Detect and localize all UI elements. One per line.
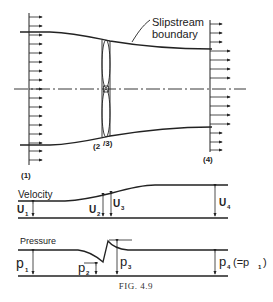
p1-label: p 1 [16, 255, 29, 273]
p4-label: p 4 (=p 1 ) [219, 254, 267, 270]
slipstream-bottom-boundary [20, 127, 212, 145]
slipstream-leader-line [132, 20, 150, 42]
u3-label: U 3 [113, 198, 125, 211]
outflow-arrows [210, 24, 230, 150]
svg-text:p: p [120, 254, 127, 269]
u1-label: U 1 [17, 204, 29, 217]
station-1-label: (1) [21, 171, 31, 180]
station-2-label: (2 [93, 142, 101, 151]
svg-text:U: U [89, 204, 96, 215]
svg-text:p: p [16, 255, 24, 271]
svg-text:(=p: (=p [233, 256, 249, 268]
svg-text:3: 3 [128, 264, 132, 270]
propeller-disc [102, 40, 110, 137]
svg-text:): ) [263, 256, 267, 268]
pressure-title: Pressure [20, 236, 56, 246]
p2-label: p 2 [78, 260, 90, 276]
slipstream-schematic [14, 13, 246, 165]
actuator-disc-diagram: Slipstream boundary (1) (2 /3) (4) Veloc… [0, 0, 273, 302]
svg-text:4: 4 [227, 264, 231, 270]
svg-text:p: p [78, 260, 85, 275]
velocity-title: Velocity [18, 189, 52, 200]
svg-text:U: U [17, 204, 24, 215]
svg-text:2: 2 [97, 211, 101, 217]
svg-text:U: U [113, 198, 120, 209]
svg-text:2: 2 [86, 270, 90, 276]
u4-label: U 4 [219, 197, 231, 210]
u2-label: U 2 [89, 204, 101, 217]
station-3-label: /3) [103, 139, 113, 148]
svg-text:1: 1 [25, 267, 29, 273]
slipstream-label-line1: Slipstream [152, 16, 204, 28]
figure-caption: FIG. 4.9 [119, 281, 153, 291]
svg-text:1: 1 [258, 264, 262, 270]
inflow-arrows [29, 17, 42, 160]
slipstream-label-line2: boundary [152, 28, 198, 40]
svg-text:4: 4 [227, 204, 231, 210]
svg-text:p: p [219, 254, 226, 269]
station-4-label: (4) [203, 155, 213, 164]
p3-label: p 3 [120, 254, 132, 270]
svg-text:U: U [219, 197, 226, 208]
svg-text:1: 1 [25, 211, 29, 217]
svg-text:3: 3 [121, 205, 125, 211]
